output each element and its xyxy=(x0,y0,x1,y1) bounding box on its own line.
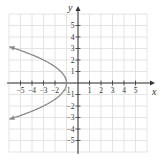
x-axis-label: x xyxy=(151,86,157,97)
x-tick-label: 5 xyxy=(134,86,138,95)
x-tick-label: −2 xyxy=(51,86,59,95)
x-tick-label: −5 xyxy=(17,86,25,95)
y-tick-label: −5 xyxy=(67,136,75,145)
y-tick-label: −2 xyxy=(67,102,75,111)
axes: x y xyxy=(7,2,157,154)
x-axis-arrow-icon xyxy=(150,81,155,86)
x-tick-label: 4 xyxy=(122,86,126,95)
y-tick-label: 2 xyxy=(71,56,75,65)
y-axis-label: y xyxy=(67,2,73,13)
x-tick-label: 1 xyxy=(88,86,92,95)
x-tick-label: 2 xyxy=(99,86,103,95)
y-tick-label: 4 xyxy=(71,33,75,42)
y-tick-label: 3 xyxy=(71,44,75,53)
y-tick-label: 1 xyxy=(71,67,75,76)
coordinate-plane: x y −5−4−3−2−112345−5−4−3−2−112345 xyxy=(0,0,162,162)
y-tick-label: −4 xyxy=(67,125,75,134)
x-tick-label: 3 xyxy=(111,86,115,95)
y-tick-label: −3 xyxy=(67,113,75,122)
x-tick-label: −3 xyxy=(40,86,48,95)
y-tick-label: −1 xyxy=(67,90,75,99)
y-tick-label: 5 xyxy=(71,21,75,30)
x-tick-label: −4 xyxy=(28,86,36,95)
y-axis-arrow-icon xyxy=(76,6,81,11)
